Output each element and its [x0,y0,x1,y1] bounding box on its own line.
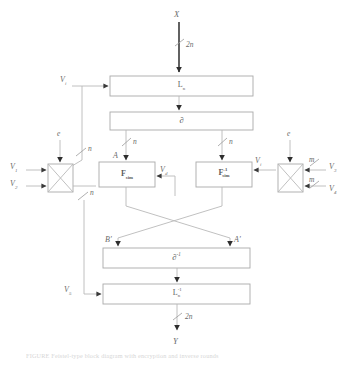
slash-left-branch-width [76,148,86,156]
block-L-bottom [103,284,250,304]
connector-lines [26,22,326,330]
slash-output-width [173,313,182,320]
block-L-top [110,76,253,96]
slash-xor-left-lower-width [78,192,88,200]
block-F-forward [99,162,155,187]
slash-branch-a-width [122,138,131,146]
figure-caption: FIGURE Feistel-type block diagram with e… [26,352,326,359]
block-diagram-canvas: X 2n Y 2n Ln ∂ Fsim F-1sim ∂-1 L-1n e e … [0,0,350,366]
slash-xor-right-lower-width [310,181,319,188]
slash-branch-b-width [218,138,227,146]
block-partial-inverse [103,248,250,268]
wire-v1-down-to-xor [72,86,82,166]
slash-xor-right-upper-width [310,159,319,166]
diagram-svg [0,0,350,366]
block-partial [110,112,253,130]
block-F-inverse [196,162,252,187]
